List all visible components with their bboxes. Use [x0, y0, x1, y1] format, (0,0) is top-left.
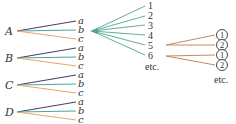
- root-label-c: C: [5, 79, 14, 92]
- right-node-5-1: 1: [220, 30, 224, 40]
- fan-origin-marker: [90, 28, 98, 34]
- root-label-d: D: [4, 106, 14, 119]
- fan-more-label: etc.: [145, 61, 159, 72]
- tree-diagram: A B C D a b c a b c a b c a b c 1 2 3 4 …: [0, 0, 236, 124]
- middle-fan-lines: [92, 6, 145, 55]
- root-label-a: A: [4, 25, 13, 38]
- left-tree-lines: [17, 21, 76, 120]
- right-node-5-2: 2: [220, 40, 224, 50]
- right-more-label: etc.: [214, 74, 228, 85]
- leaf-d-c: c: [78, 114, 84, 124]
- right-node-6-2: 2: [220, 60, 224, 70]
- root-label-b: B: [4, 52, 13, 65]
- right-node-6-1: 1: [220, 50, 224, 60]
- right-tree-lines: [166, 35, 215, 65]
- fan-item-6: 6: [148, 50, 153, 61]
